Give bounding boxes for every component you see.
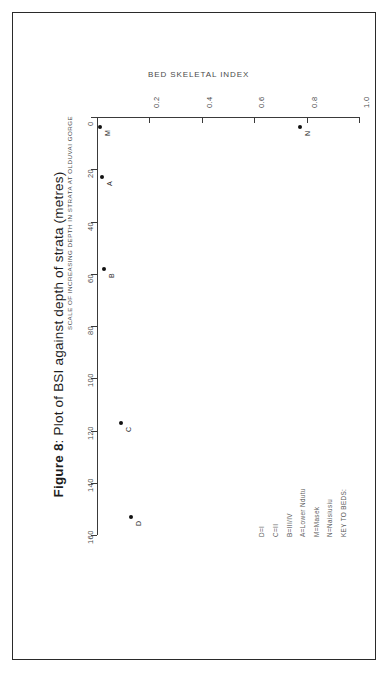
y-tick-label: 100 (86, 374, 95, 388)
figure-page: Figure 8: Plot of BSI against depth of s… (0, 0, 389, 674)
y-tick (91, 117, 97, 118)
data-point[interactable] (98, 125, 102, 129)
data-point-label: B (108, 273, 115, 278)
x-tick (254, 117, 255, 123)
key-entry: C=II (272, 524, 279, 537)
x-tick-label: 1.0 (362, 96, 371, 108)
x-tick (307, 117, 308, 123)
data-point-label: M (104, 130, 111, 136)
x-axis-title: BED SKELETAL INDEX (148, 70, 249, 79)
data-point[interactable] (129, 515, 133, 519)
x-tick (149, 117, 150, 123)
y-tick-label: 60 (86, 274, 95, 283)
data-point[interactable] (119, 421, 123, 425)
data-point-label: N (304, 131, 311, 136)
y-tick-label: 120 (86, 426, 95, 440)
x-tick (359, 117, 360, 123)
y-tick-label: 40 (86, 221, 95, 230)
x-tick (202, 117, 203, 123)
x-tick-label: 0.2 (152, 96, 161, 108)
y-axis-line (97, 117, 98, 535)
y-tick-label: 160 (86, 530, 95, 544)
y-tick-label: 80 (86, 326, 95, 335)
key-entry: B=III/IV (286, 513, 293, 537)
x-tick-label: 0.4 (205, 96, 214, 108)
y-tick-label: 0 (86, 121, 95, 126)
key-entry: M=Masek (313, 507, 320, 537)
x-tick-label: 0.6 (257, 96, 266, 108)
key-entry: A=Lower Ndutu (299, 488, 306, 537)
data-point-label: A (106, 181, 113, 186)
key-entry: N=Naisiusiu (326, 499, 333, 537)
scatter-plot: BED SKELETAL INDEX SCALE OF INCREASING D… (0, 0, 389, 674)
data-point[interactable] (102, 267, 106, 271)
data-point-label: D (135, 520, 142, 525)
rotated-figure: Figure 8: Plot of BSI against depth of s… (0, 0, 389, 674)
data-point[interactable] (298, 125, 302, 129)
key-entry: D=I (258, 526, 265, 537)
y-tick-label: 140 (86, 478, 95, 492)
x-tick-label: 0.8 (310, 96, 319, 108)
data-point-label: C (125, 426, 132, 431)
key-title: KEY TO BEDS: (340, 489, 347, 537)
data-point[interactable] (100, 175, 104, 179)
y-axis-title: SCALE OF INCREASING DEPTH IN STRATA AT O… (66, 116, 73, 330)
y-tick-label: 20 (86, 169, 95, 178)
x-axis-line (97, 117, 359, 118)
